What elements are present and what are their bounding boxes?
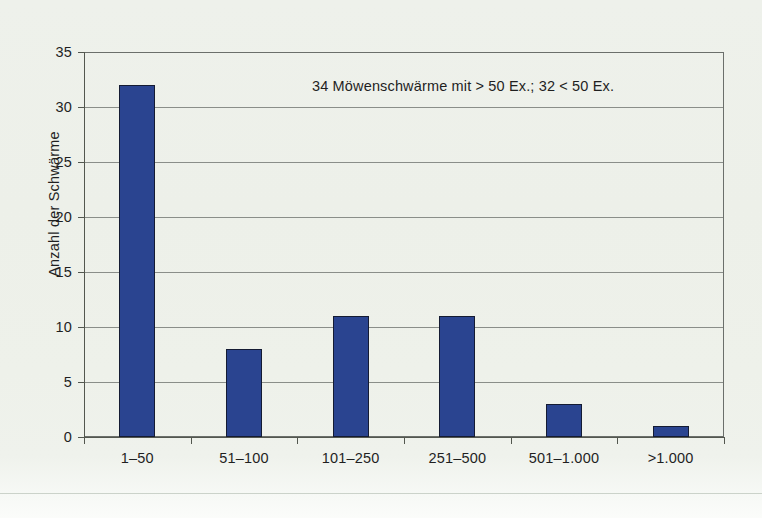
x-axis-tick-label: 1–50 (84, 450, 191, 466)
y-tick-mark-25 (78, 162, 84, 163)
bar-3 (333, 316, 369, 437)
y-tick-mark-15 (78, 272, 84, 273)
x-tick-mark-4 (511, 438, 512, 444)
x-axis-tick-label: 51–100 (191, 450, 298, 466)
x-tick-mark-5 (617, 438, 618, 444)
x-tick-mark-edge-0 (84, 438, 85, 444)
x-axis-tick-label: >1.000 (617, 450, 724, 466)
y-axis-title: Anzahl der Schwärme (46, 104, 62, 304)
bar-4 (439, 316, 475, 437)
y-tick-mark-35 (78, 52, 84, 53)
bar-5 (546, 404, 582, 437)
x-axis-tick-label: 101–250 (297, 450, 404, 466)
y-tick-mark-20 (78, 217, 84, 218)
x-axis-tick-label: 251–500 (404, 450, 511, 466)
scan-artifact-line (0, 493, 762, 494)
y-axis-tick-label: 10 (26, 320, 72, 335)
x-tick-mark-3 (404, 438, 405, 444)
plot-area-border (84, 52, 724, 437)
y-axis-tick-label: 35 (26, 45, 72, 60)
y-tick-mark-30 (78, 107, 84, 108)
bar-1 (119, 85, 155, 437)
chart-page: 05101520253035 1–5051–100101–250251–5005… (0, 0, 762, 518)
bar-2 (226, 349, 262, 437)
x-tick-mark-2 (297, 438, 298, 444)
y-tick-mark-10 (78, 327, 84, 328)
x-axis-tick-label: 501–1.000 (511, 450, 618, 466)
x-tick-mark-edge-6 (724, 438, 725, 444)
chart-annotation-text: 34 Möwenschwärme mit > 50 Ex.; 32 < 50 E… (312, 78, 614, 94)
y-axis-tick-label: 5 (26, 375, 72, 390)
y-axis-tick-label: 0 (26, 430, 72, 445)
x-tick-mark-1 (191, 438, 192, 444)
y-tick-mark-5 (78, 382, 84, 383)
y-axis-line (84, 52, 85, 438)
bar-6 (653, 426, 689, 437)
